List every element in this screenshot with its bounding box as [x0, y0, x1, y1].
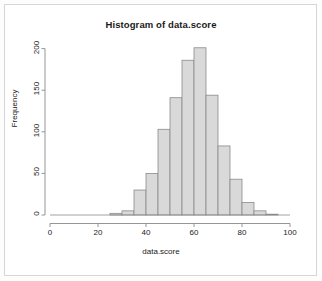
- histogram-bar: [122, 211, 134, 215]
- histogram-bar: [206, 95, 218, 215]
- x-axis-tick-label: 40: [134, 228, 158, 237]
- chart-plot-area: [0, 0, 322, 281]
- histogram-bar: [134, 190, 146, 215]
- x-axis-tick-label: 20: [86, 228, 110, 237]
- x-axis-tick-label: 100: [278, 228, 302, 237]
- histogram-bar: [254, 211, 266, 215]
- y-axis-tick-label: 100: [31, 118, 40, 142]
- y-axis-tick-label: 200: [31, 35, 40, 59]
- histogram-bar: [218, 146, 230, 215]
- histogram-bar: [230, 179, 242, 215]
- x-axis-tick-label: 0: [38, 228, 62, 237]
- histogram-screenshot: Histogram of data.score Frequency data.s…: [0, 0, 322, 281]
- y-axis-tick-label: 150: [31, 77, 40, 101]
- histogram-bar: [182, 60, 194, 215]
- histogram-bar: [158, 129, 170, 215]
- y-axis-tick-label: 50: [31, 160, 40, 184]
- histogram-bar: [194, 48, 206, 215]
- histogram-bar: [242, 203, 254, 215]
- histogram-bar: [146, 173, 158, 215]
- histogram-bar: [170, 98, 182, 215]
- x-axis-tick-label: 80: [230, 228, 254, 237]
- y-axis-tick-label: 0: [31, 202, 40, 226]
- x-axis-tick-label: 60: [182, 228, 206, 237]
